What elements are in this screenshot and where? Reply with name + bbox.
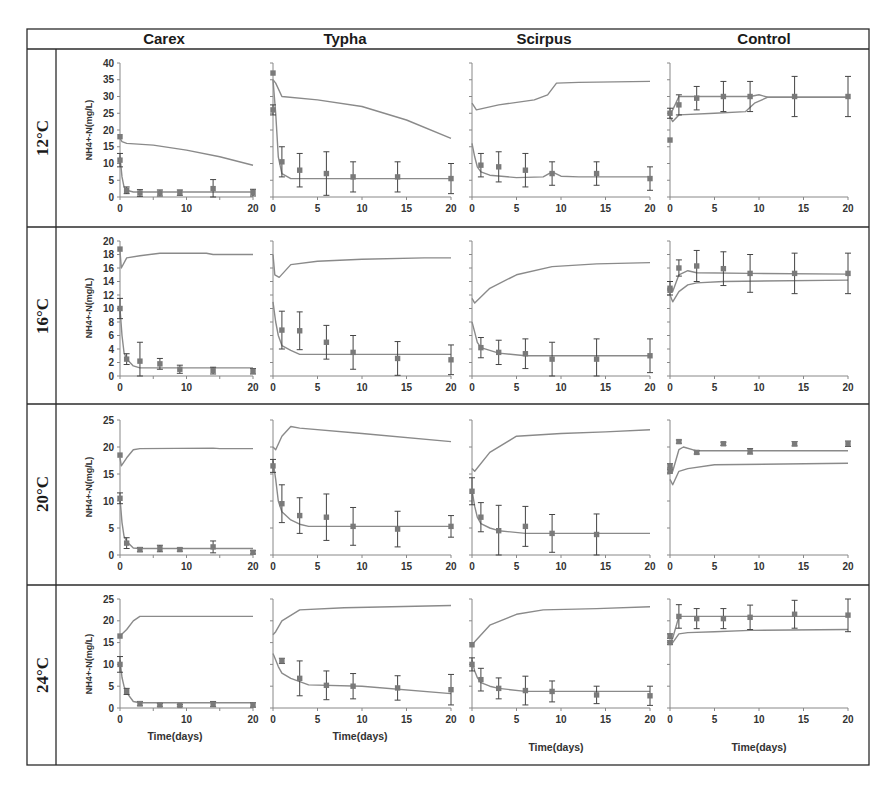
x-tick-label: 20 [247, 382, 259, 393]
model-curve [120, 448, 253, 466]
data-point-marker [124, 188, 129, 193]
x-axis-title-scirpus: Time(days) [528, 741, 583, 753]
data-point-marker [694, 95, 699, 100]
y-axis-labels: NH4+-N(mg/L) NH4+-N(mg/L) NH4+-N(mg/L) N… [84, 100, 94, 694]
x-tick-label: 0 [270, 561, 276, 572]
data-point-marker [667, 640, 672, 645]
chart-panel-scirpus-24c: 05101520 [469, 599, 656, 725]
model-curve [273, 427, 451, 450]
y-tick-label: 10 [103, 659, 115, 670]
data-point-marker [676, 265, 681, 270]
x-tick-label: 15 [798, 203, 810, 214]
x-tick-label: 5 [514, 382, 520, 393]
data-point-marker [647, 176, 652, 181]
x-tick-label: 20 [842, 382, 854, 393]
model-curve [120, 251, 253, 268]
data-point-marker [549, 531, 554, 536]
y-tick-label: 10 [103, 158, 115, 169]
data-point-marker [137, 190, 142, 195]
data-point-marker [594, 692, 599, 697]
data-point-marker [647, 353, 652, 358]
model-curve [472, 263, 650, 304]
data-point-marker [448, 176, 453, 181]
data-point-marker [124, 356, 129, 361]
x-tick-label: 15 [600, 203, 612, 214]
y-tick-label: 5 [108, 681, 114, 692]
y-tick-label: 15 [103, 637, 115, 648]
y-tick-label: 20 [103, 125, 115, 136]
data-point-marker [350, 684, 355, 689]
y-tick-label: 20 [103, 236, 115, 247]
column-header-control: Control [737, 30, 790, 47]
data-point-marker [496, 350, 501, 355]
data-point-marker [676, 439, 681, 444]
y-tick-label: 25 [103, 594, 115, 605]
y-tick-label: 20 [103, 442, 115, 453]
y-axis-label-12c: NH4+-N(mg/L) [84, 100, 94, 160]
x-tick-label: 0 [667, 714, 673, 725]
x-tick-label: 10 [753, 714, 765, 725]
x-tick-label: 0 [117, 203, 123, 214]
data-point-marker [523, 168, 528, 173]
data-point-marker [137, 701, 142, 706]
y-tick-label: 35 [103, 74, 115, 85]
data-point-marker [279, 658, 284, 663]
data-point-marker [667, 111, 672, 116]
chart-panel-carex-12c: 051015202530354001020 [103, 58, 259, 215]
data-point-marker [676, 102, 681, 107]
data-point-marker [523, 524, 528, 529]
x-axis-title-typha: Time(days) [332, 730, 387, 742]
data-point-marker [210, 368, 215, 373]
x-tick-label: 20 [445, 382, 457, 393]
x-tick-label: 15 [600, 714, 612, 725]
model-curve [273, 606, 451, 635]
data-point-marker [594, 171, 599, 176]
chart-panel-control-24c: 05101520 [667, 599, 854, 725]
data-point-marker [845, 271, 850, 276]
data-point-marker [395, 356, 400, 361]
y-tick-label: 5 [108, 175, 114, 186]
y-tick-label: 10 [103, 496, 115, 507]
y-tick-label: 25 [103, 415, 115, 426]
data-point-marker [117, 496, 122, 501]
y-tick-label: 15 [103, 469, 115, 480]
row-label-24c: 24°C [33, 657, 52, 693]
data-point-marker [395, 174, 400, 179]
row-label-20c: 20°C [33, 476, 52, 512]
x-axis-title-control: Time(days) [731, 741, 786, 753]
data-point-marker [667, 633, 672, 638]
x-tick-label: 5 [712, 561, 718, 572]
data-point-marker [549, 356, 554, 361]
y-tick-label: 4 [108, 344, 114, 355]
figure-grid: Carex Typha Scirpus Control 12°C 16°C 20… [0, 0, 896, 791]
x-tick-label: 20 [644, 203, 656, 214]
chart-panels: 0510152025303540010200510152005101520051… [103, 58, 854, 726]
chart-panel-scirpus-16c: 05101520 [469, 241, 656, 393]
x-tick-label: 10 [555, 203, 567, 214]
x-tick-label: 15 [600, 382, 612, 393]
x-tick-label: 10 [356, 714, 368, 725]
x-tick-label: 10 [181, 203, 193, 214]
data-point-marker [250, 702, 255, 707]
x-tick-label: 10 [555, 382, 567, 393]
x-tick-label: 0 [117, 561, 123, 572]
x-tick-label: 0 [469, 561, 475, 572]
y-tick-label: 30 [103, 91, 115, 102]
x-tick-label: 15 [798, 382, 810, 393]
data-point-marker [177, 367, 182, 372]
data-point-marker [694, 616, 699, 621]
x-tick-label: 15 [401, 203, 413, 214]
data-point-marker [694, 263, 699, 268]
x-tick-label: 5 [712, 203, 718, 214]
x-tick-label: 10 [356, 561, 368, 572]
data-point-marker [845, 94, 850, 99]
data-point-marker [667, 137, 672, 142]
data-point-marker [117, 157, 122, 162]
column-header-scirpus: Scirpus [516, 30, 571, 47]
x-tick-label: 20 [445, 561, 457, 572]
data-point-marker [721, 266, 726, 271]
data-point-marker [478, 677, 483, 682]
y-tick-label: 15 [103, 141, 115, 152]
model-curve [670, 280, 848, 302]
y-tick-label: 6 [108, 330, 114, 341]
